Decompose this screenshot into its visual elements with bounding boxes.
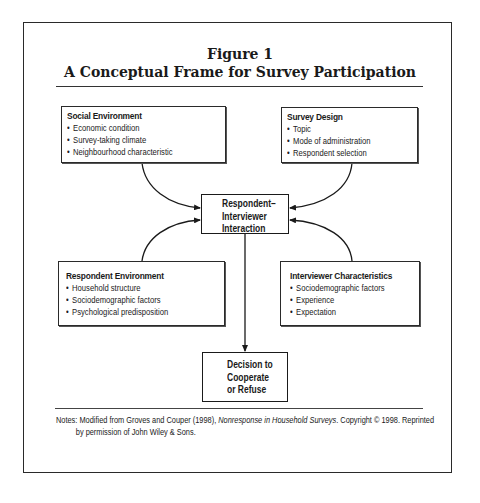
- figure-notes: Notes: Modified from Groves and Couper (…: [56, 414, 436, 438]
- list-item: Psychological predisposition: [66, 306, 196, 318]
- interaction-line: Respondent–: [222, 198, 278, 211]
- list-item: Experience: [290, 294, 395, 306]
- arrow-interviewer-to-interaction: [290, 220, 352, 261]
- list-item: Economic condition: [67, 122, 197, 134]
- arrow-survey-to-interaction: [290, 163, 352, 208]
- list-item: Survey-taking climate: [67, 134, 197, 146]
- list-item: Mode of administration: [287, 135, 393, 147]
- interaction-box: Respondent– Interviewer Interaction: [201, 194, 289, 234]
- decision-line: Cooperate: [227, 372, 278, 385]
- box-heading: Interviewer Characteristics: [290, 270, 399, 282]
- social-environment-box: Social Environment Economic condition Su…: [61, 106, 226, 163]
- list-item: Household structure: [66, 282, 196, 294]
- box-heading: Social Environment: [67, 110, 202, 122]
- list-item: Neighbourhood characteristic: [67, 146, 197, 158]
- notes-suffix: . Copyright © 1998. Reprinted: [336, 415, 434, 425]
- decision-line: Decision to: [227, 359, 278, 372]
- interaction-line: Interviewer: [222, 211, 278, 224]
- arrow-respondent-to-interaction: [142, 220, 200, 261]
- list-item: Topic: [287, 123, 393, 135]
- interaction-line: Interaction: [222, 223, 278, 236]
- notes-book-title: Nonresponse in Household Surveys: [218, 415, 336, 425]
- survey-design-box: Survey Design Topic Mode of administrati…: [281, 107, 418, 163]
- notes-line-2: by permission of John Wiley & Sons.: [56, 426, 383, 438]
- list-item: Expectation: [290, 306, 395, 318]
- list-item: Respondent selection: [287, 147, 393, 159]
- interviewer-characteristics-box: Interviewer Characteristics Sociodemogra…: [280, 261, 420, 326]
- notes-prefix: Notes: Modified from Groves and Couper (…: [56, 415, 218, 425]
- decision-box: Decision to Cooperate or Refuse: [202, 352, 288, 402]
- decision-line: or Refuse: [227, 384, 278, 397]
- arrow-social-to-interaction: [142, 163, 200, 208]
- list-item: Sociodemographic factors: [290, 282, 395, 294]
- notes-divider: [55, 408, 423, 409]
- box-heading: Respondent Environment: [66, 270, 201, 282]
- list-item: Sociodemographic factors: [66, 294, 196, 306]
- respondent-environment-box: Respondent Environment Household structu…: [58, 261, 225, 326]
- box-heading: Survey Design: [287, 111, 397, 123]
